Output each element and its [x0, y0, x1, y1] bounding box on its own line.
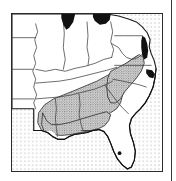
locality-points-layer [118, 151, 122, 155]
map-canvas [12, 14, 162, 171]
figure-page: Southeastern United States Species range… [0, 0, 176, 181]
legend-label-ocean: Ocean / water body [0, 0, 1, 1]
map-region-label: Southeastern United States [0, 0, 1, 1]
legend-label-species-range: Species range [0, 0, 1, 1]
locality-dot-south-florida [118, 151, 122, 155]
legend-label-locality-record: Locality record [0, 0, 1, 1]
legend-label-great-lakes: Great Lakes [0, 0, 1, 1]
distribution-map-figure [11, 13, 163, 172]
column-rule [171, 0, 172, 181]
